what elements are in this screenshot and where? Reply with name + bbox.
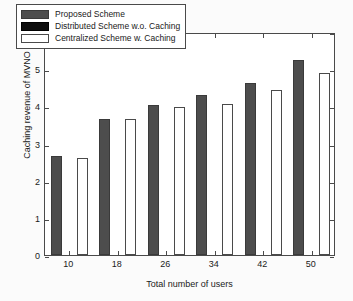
chart-legend: Proposed SchemeDistributed Scheme w.o. C… xyxy=(16,4,186,49)
y-axis-tick-mark xyxy=(45,220,49,221)
legend-swatch xyxy=(21,10,49,19)
y-axis-tick-mark xyxy=(330,71,334,72)
legend-item[interactable]: Proposed Scheme xyxy=(21,9,180,20)
y-axis-tick-mark xyxy=(45,257,49,258)
y-axis-tick-mark xyxy=(330,34,334,35)
x-axis-tick-label: 26 xyxy=(150,259,180,269)
y-axis-tick-mark xyxy=(330,108,334,109)
y-axis-tick-label: 2 xyxy=(18,177,40,187)
x-axis-tick-mark xyxy=(263,34,264,38)
bar xyxy=(271,90,282,255)
x-axis-tick-label: 18 xyxy=(102,259,132,269)
figure-canvas: x 104 Caching revenue of MVNO Total numb… xyxy=(0,0,353,301)
y-axis-tick-mark xyxy=(330,183,334,184)
legend-item[interactable]: Centralized Scheme w. Caching xyxy=(21,33,180,44)
bar xyxy=(319,73,330,255)
legend-swatch xyxy=(21,34,49,43)
x-axis-tick-mark xyxy=(312,34,313,38)
legend-label: Centralized Scheme w. Caching xyxy=(55,33,175,44)
y-axis-tick-mark xyxy=(330,220,334,221)
bar xyxy=(51,156,62,255)
bar xyxy=(174,107,185,255)
y-axis-tick-mark xyxy=(330,257,334,258)
plot-area xyxy=(44,33,335,256)
bar xyxy=(77,158,88,255)
legend-label: Distributed Scheme w.o. Caching xyxy=(55,21,180,32)
x-axis-tick-mark xyxy=(118,251,119,255)
bar xyxy=(222,104,233,255)
y-axis-tick-mark xyxy=(45,183,49,184)
x-axis-tick-mark xyxy=(263,251,264,255)
x-axis-tick-label: 42 xyxy=(247,259,277,269)
legend-item[interactable]: Distributed Scheme w.o. Caching xyxy=(21,21,180,32)
y-axis-tick-mark xyxy=(330,146,334,147)
y-axis-tick-label: 1 xyxy=(18,214,40,224)
bar xyxy=(293,60,304,255)
y-axis-tick-label: 5 xyxy=(18,65,40,75)
bar xyxy=(99,119,110,255)
y-axis-tick-label: 4 xyxy=(18,102,40,112)
legend-label: Proposed Scheme xyxy=(55,9,125,20)
x-axis-tick-label: 50 xyxy=(296,259,326,269)
x-axis-tick-mark xyxy=(215,251,216,255)
y-axis-tick-mark xyxy=(45,146,49,147)
y-axis-tick-label: 3 xyxy=(18,140,40,150)
bar xyxy=(125,119,136,255)
x-axis-tick-label: 10 xyxy=(53,259,83,269)
bar xyxy=(245,83,256,255)
legend-swatch xyxy=(21,22,49,31)
x-axis-tick-mark xyxy=(69,251,70,255)
bar xyxy=(148,105,159,255)
y-axis-tick-label: 0 xyxy=(18,251,40,261)
x-axis-title: Total number of users xyxy=(44,279,335,289)
x-axis-tick-mark xyxy=(166,251,167,255)
x-axis-tick-label: 34 xyxy=(199,259,229,269)
x-axis-tick-mark xyxy=(312,251,313,255)
bar xyxy=(196,95,207,255)
x-axis-tick-mark xyxy=(215,34,216,38)
y-axis-tick-mark xyxy=(45,108,49,109)
y-axis-tick-mark xyxy=(45,71,49,72)
